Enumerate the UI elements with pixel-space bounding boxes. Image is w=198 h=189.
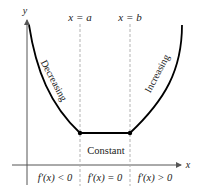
diagram: y x x = a x = b Decreasing Increasing Co…	[0, 0, 198, 189]
y-axis-label: y	[22, 5, 28, 16]
label-x-equals-a: x = a	[67, 11, 92, 23]
point-b	[128, 131, 132, 135]
interval-label-decreasing: f′(x) < 0	[38, 172, 73, 184]
interval-label-constant: f′(x) = 0	[88, 172, 123, 184]
constant-label: Constant	[87, 145, 124, 156]
label-x-equals-b: x = b	[117, 11, 142, 23]
point-a	[78, 131, 82, 135]
x-axis-label: x	[185, 159, 191, 170]
interval-label-increasing: f′(x) > 0	[138, 172, 173, 184]
